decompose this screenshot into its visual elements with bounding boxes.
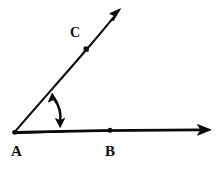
point-b-dot bbox=[108, 128, 113, 133]
angle-diagram: A B C bbox=[0, 0, 222, 174]
point-c-dot bbox=[84, 47, 89, 52]
point-a-label: A bbox=[11, 144, 22, 159]
point-c-label: C bbox=[70, 25, 80, 40]
point-a-dot bbox=[12, 130, 17, 135]
point-b-label: B bbox=[105, 144, 115, 159]
